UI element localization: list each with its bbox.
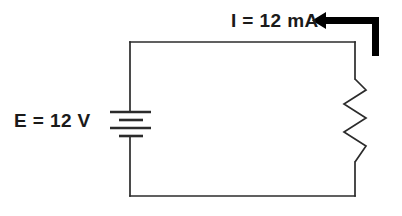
current-arrow-shaft-horizontal — [322, 17, 379, 24]
source-voltage-label: E = 12 V — [14, 110, 91, 132]
current-arrow — [312, 12, 379, 56]
resistor-symbol — [344, 79, 366, 162]
circuit-loop-wires — [130, 42, 355, 196]
circuit-schematic — [0, 0, 402, 216]
current-arrow-shaft-vertical — [372, 17, 379, 56]
battery-symbol — [110, 112, 151, 136]
circuit-diagram-canvas: E = 12 V I = 12 mA — [0, 0, 402, 216]
current-value-label: I = 12 mA — [231, 10, 319, 32]
resistor-zigzag — [344, 79, 366, 162]
